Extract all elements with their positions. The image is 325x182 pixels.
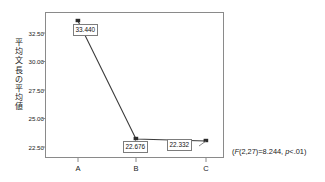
x-tick-label-c: C <box>194 164 218 173</box>
annotation-f-detail: (2,27)=8.244, <box>239 147 285 156</box>
annotation-p-detail: <.01) <box>289 147 306 156</box>
x-tick-label-a: A <box>66 164 90 173</box>
anova-annotation: (F(2,27)=8.244, p<.01) <box>232 147 306 157</box>
x-tick-label-b: B <box>124 164 148 173</box>
line-chart-figure: 平均文長の平均値 32.50 30.00 27.50 25.00 22.50 <box>0 0 325 182</box>
